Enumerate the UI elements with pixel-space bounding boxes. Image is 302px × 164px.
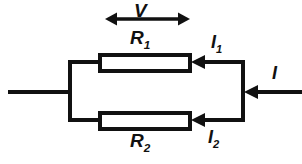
current-i1-arrow-head [191, 55, 205, 69]
current-i1-label: I1 [211, 33, 222, 55]
parallel-resistor-circuit-diagram: V R1 R2 I1 I2 I [0, 0, 302, 164]
voltage-label: V [134, 1, 147, 20]
current-i2-label: I2 [208, 128, 219, 150]
current-i-arrow-head [244, 85, 258, 99]
resistor-r1-symbol [100, 55, 190, 71]
resistor-r2-label: R2 [130, 131, 150, 154]
circuit-schematic-canvas [0, 0, 302, 164]
current-i2-arrow-head [191, 113, 205, 127]
voltage-arrow-head-right [178, 13, 190, 26]
resistor-r1-label: R1 [130, 28, 150, 51]
resistor-r2-symbol [100, 113, 190, 129]
current-i-total-label: I [272, 64, 277, 82]
voltage-arrow-head-left [105, 13, 117, 26]
